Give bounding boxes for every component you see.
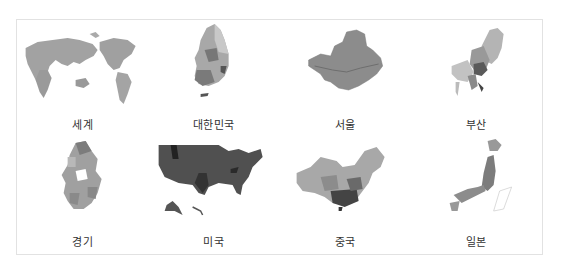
map-tile-gyeonggi[interactable]: 경기 — [17, 137, 148, 254]
map-label: 경기 — [17, 233, 148, 249]
map-label: 부산 — [411, 116, 542, 132]
map-label: 미국 — [148, 233, 279, 249]
korea-map-icon — [148, 20, 279, 110]
gyeonggi-map-icon — [17, 137, 148, 227]
map-tile-korea[interactable]: 대한민국 — [148, 20, 279, 137]
map-tile-usa[interactable]: 미국 — [148, 137, 279, 254]
map-tile-japan[interactable]: 일본 — [411, 137, 542, 254]
map-tile-world[interactable]: 세계 — [17, 20, 148, 137]
seoul-map-icon — [280, 20, 411, 110]
china-map-icon — [280, 137, 411, 227]
map-label: 중국 — [280, 233, 411, 249]
busan-map-icon — [411, 20, 542, 110]
map-tile-china[interactable]: 중국 — [280, 137, 411, 254]
japan-map-icon — [411, 137, 542, 227]
map-label: 세계 — [17, 116, 148, 132]
map-tile-seoul[interactable]: 서울 — [280, 20, 411, 137]
world-map-icon — [17, 20, 148, 110]
usa-map-icon — [148, 137, 279, 227]
map-label: 대한민국 — [148, 116, 279, 132]
map-gallery: 세계 대한민국 — [16, 19, 543, 255]
map-label: 일본 — [411, 233, 542, 249]
map-tile-busan[interactable]: 부산 — [411, 20, 542, 137]
map-label: 서울 — [280, 116, 411, 132]
